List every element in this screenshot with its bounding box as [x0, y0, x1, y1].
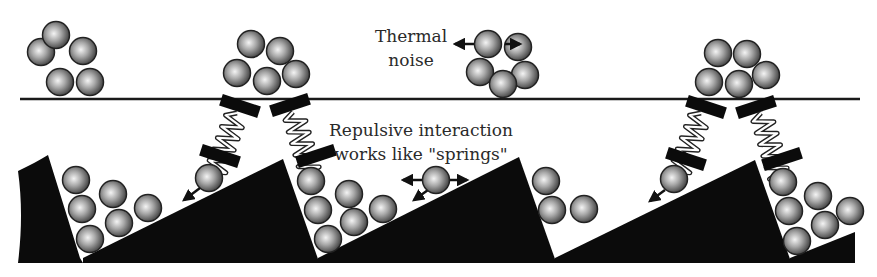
- cluster-spring-left: [224, 31, 310, 95]
- thermal-noise-label: Thermal noise: [366, 24, 456, 72]
- repulsive-line2: works like "springs": [318, 142, 524, 166]
- thermal-noise-line2: noise: [366, 48, 456, 72]
- thermal-noise-line1: Thermal: [366, 24, 456, 48]
- cluster-thermal: [455, 31, 539, 98]
- cluster-free-left: [28, 22, 104, 96]
- cluster-spring-right: [696, 40, 780, 98]
- repulsive-interaction-label: Repulsive interaction works like "spring…: [318, 118, 524, 166]
- repulsive-line1: Repulsive interaction: [318, 118, 524, 142]
- ratchet-diagram: Thermal noise Repulsive interaction work…: [0, 0, 877, 277]
